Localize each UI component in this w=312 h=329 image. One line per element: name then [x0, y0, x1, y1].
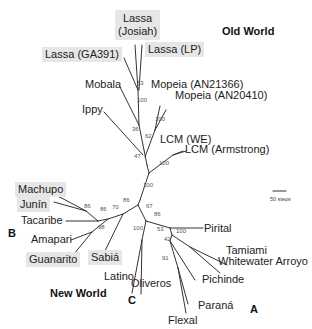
bootstrap-42: 42 [164, 236, 171, 243]
taxon-oliveros: Oliveros [131, 277, 171, 290]
taxon-lassa-josiah: Lassa (Josiah) [115, 10, 160, 40]
taxon-whitewater-arroyo: Whitewater Arroyo [218, 255, 308, 268]
taxon-junin: Junín [17, 197, 50, 212]
bootstrap-100-tam-ww: 100 [176, 228, 186, 235]
bootstrap-36: 36 [132, 126, 139, 133]
branch-junin [54, 202, 86, 211]
bootstrap-100-lcm: 100 [159, 160, 169, 167]
branch-lassa-clade [138, 90, 139, 125]
bootstrap-86-nw: 86 [123, 197, 130, 204]
taxon-lassa-ga391: Lassa (GA391) [42, 47, 122, 62]
branch-bc [123, 205, 138, 214]
clade-label-c: C [128, 294, 136, 306]
branch-pf-stem [170, 241, 178, 268]
bootstrap-70: 70 [112, 204, 119, 211]
bootstrap-67: 67 [146, 203, 153, 210]
taxon-latino: Latino [104, 270, 134, 283]
branch-ow-stem [147, 165, 149, 173]
bootstrap-53-lassa: 53 [137, 80, 144, 87]
bootstrap-86-a: 86 [154, 211, 161, 218]
branch-nw-split [138, 200, 140, 205]
bootstrap-100-root: 100 [143, 182, 153, 189]
taxon-amapari: Amapari [31, 233, 72, 246]
taxon-pichinde: Pichinde [202, 273, 244, 286]
branch-mobala [120, 87, 139, 125]
branch-a-inner [170, 228, 172, 235]
region-old-world: Old World [222, 25, 274, 37]
taxon-pirital: Pirital [204, 222, 232, 235]
branch-flexal [178, 268, 186, 313]
taxon-mopeia-an20410: Mopeia (AN20410) [175, 89, 267, 102]
bootstrap-53-a: 53 [157, 226, 164, 233]
bootstrap-91: 91 [162, 255, 169, 262]
taxon-lcm-armstrong: LCM (Armstrong) [185, 143, 269, 156]
taxon-tacaribe: Tacaribe [21, 214, 63, 227]
bootstrap-47: 47 [134, 153, 141, 160]
branch-tam-ww-stem [172, 235, 190, 247]
taxon-sabia: Sabiá [88, 250, 122, 265]
bootstrap-100-lassa-mobala: 100 [137, 97, 147, 104]
taxon-lassa-lp: Lassa (LP) [145, 42, 204, 57]
taxon-guanarito: Guanarito [26, 252, 80, 267]
region-new-world: New World [50, 287, 107, 299]
branch-pichinde [170, 241, 195, 280]
bootstrap-98: 98 [98, 224, 105, 231]
taxon-parana: Paraná [198, 299, 233, 312]
taxon-flexal: Flexal [168, 314, 197, 327]
bootstrap-62: 62 [145, 133, 152, 140]
branch-ippy [104, 112, 143, 155]
clade-label-a: A [250, 303, 258, 315]
branch-whitewater [190, 247, 220, 273]
branch-ac [138, 205, 146, 221]
bootstrap-100-mopeia: 100 [155, 116, 165, 123]
bootstrap-86-tacaribe: 86 [100, 206, 107, 213]
bootstrap-86-machupo-junin: 86 [84, 203, 91, 210]
taxon-lassa-josiah-line1: Lassa [118, 12, 157, 25]
branch-mobala-lassa-stem [139, 125, 144, 150]
bootstrap-100-c: 100 [133, 225, 143, 232]
taxon-machupo: Machupo [15, 182, 66, 197]
taxon-lassa-josiah-line2: (Josiah) [118, 25, 157, 38]
branch-mj-stem [86, 211, 98, 221]
scale-bar-label: 50 steps [270, 196, 291, 202]
clade-label-b: B [8, 227, 16, 239]
taxon-mobala: Mobala [85, 78, 121, 91]
taxon-ippy: Ippy [82, 103, 103, 116]
